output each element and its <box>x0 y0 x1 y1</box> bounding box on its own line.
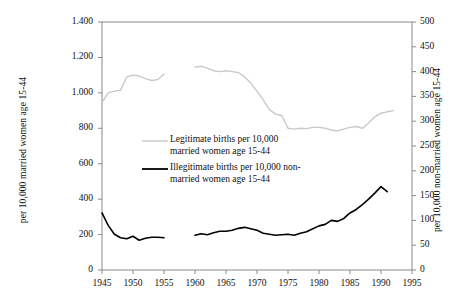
legend-entry-line2: married women age 15-44 <box>170 174 301 186</box>
legend-entry: Legitimate births per 10,000married wome… <box>170 134 278 157</box>
legend-entry-line1: Legitimate births per 10,000 <box>170 134 278 146</box>
legend-line-swatches <box>142 141 168 169</box>
legend-entry: Illegitimate births per 10,000 non-marri… <box>170 162 301 185</box>
legend-entry-line2: married women age 15-44 <box>170 146 278 158</box>
legend-entry-line1: Illegitimate births per 10,000 non- <box>170 162 301 174</box>
chart-container: per 10,000 married women age 15-44 per 1… <box>0 0 459 305</box>
